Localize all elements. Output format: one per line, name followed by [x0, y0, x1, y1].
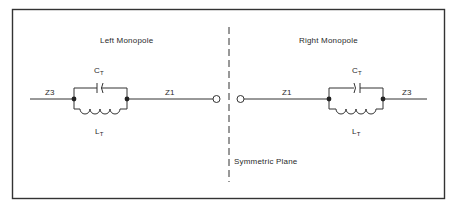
right-junction-node — [327, 97, 332, 102]
left-inductor-subscript: T — [100, 131, 104, 137]
left-terminal-icon — [213, 96, 220, 103]
right-inductor-icon — [329, 99, 383, 114]
right-terminal-icon — [237, 96, 244, 103]
left-junction-node — [72, 97, 77, 102]
right-monopole-circuit — [237, 83, 427, 114]
right-capacitor-label: CT — [352, 67, 362, 76]
left-monopole-circuit — [30, 83, 220, 114]
left-inductor-icon — [74, 99, 127, 114]
right-junction-node — [381, 97, 386, 102]
left-z1-label: Z1 — [165, 89, 175, 97]
right-capacitor-icon — [329, 83, 383, 99]
symmetric-plane-label: Symmetric Plane — [234, 158, 297, 166]
right-z1-label: Z1 — [282, 89, 292, 97]
left-monopole-title: Left Monopole — [100, 37, 153, 45]
left-junction-node — [125, 97, 130, 102]
circuit-diagram — [0, 0, 453, 207]
right-inductor-subscript: T — [357, 131, 361, 137]
right-monopole-title: Right Monopole — [299, 37, 358, 45]
right-inductor-label: LT — [352, 128, 361, 137]
left-capacitor-label: CT — [94, 67, 104, 76]
left-capacitor-subscript: T — [100, 70, 104, 76]
right-z3-label: Z3 — [402, 89, 412, 97]
left-capacitor-icon — [74, 83, 127, 99]
left-z3-label: Z3 — [45, 89, 55, 97]
right-capacitor-subscript: T — [358, 70, 362, 76]
left-inductor-label: LT — [95, 128, 104, 137]
